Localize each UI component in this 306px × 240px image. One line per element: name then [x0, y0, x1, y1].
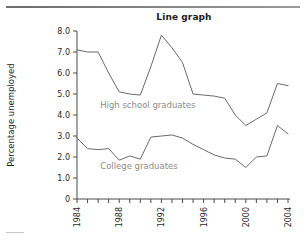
y-axis-tick-label: 6.0 [57, 69, 70, 78]
y-axis-tick-label: 0 [65, 195, 70, 204]
x-axis-tick-label: 1988 [115, 207, 124, 227]
y-axis-tick-label: 3.0 [57, 132, 70, 141]
y-axis-tick-label: 1.0 [57, 174, 70, 183]
x-axis-tick-label: 2004 [284, 207, 293, 227]
x-axis-tick-label: 2000 [242, 207, 251, 227]
x-axis-tick-label: 1992 [157, 207, 166, 227]
y-axis-tick-label: 8.0 [57, 27, 70, 36]
y-axis-tick-label: 2.0 [57, 153, 70, 162]
x-axis-tick-label: 1984 [73, 207, 82, 227]
figure-container: Line graph 01.02.03.04.05.06.07.08.01984… [0, 0, 306, 240]
series-label-high-school-graduates: High school graduates [100, 100, 196, 110]
series-line-high-school-graduates [77, 35, 288, 125]
y-axis-tick-label: 4.0 [57, 111, 70, 120]
y-axis-tick-label: 7.0 [57, 48, 70, 57]
y-axis-tick-label: 5.0 [57, 90, 70, 99]
bottom-divider-rule [6, 232, 24, 233]
y-axis-title: Percentage unemployed [6, 63, 16, 166]
series-label-college-graduates: College graduates [100, 161, 178, 171]
line-chart-plot: 01.02.03.04.05.06.07.08.0198419881992199… [0, 0, 306, 240]
x-axis-tick-label: 1996 [200, 207, 209, 227]
